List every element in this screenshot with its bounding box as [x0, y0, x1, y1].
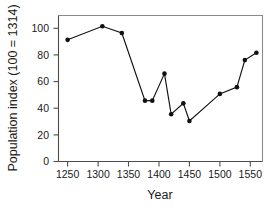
- data-point: [143, 98, 148, 103]
- data-point: [65, 38, 70, 43]
- data-point: [218, 92, 223, 97]
- data-point: [169, 112, 174, 117]
- x-tick-label-1350: 1350: [117, 168, 141, 180]
- y-tick-label-40: 40: [37, 102, 49, 114]
- x-tick-label-1500: 1500: [208, 168, 232, 180]
- x-tick-label-1300: 1300: [86, 168, 110, 180]
- x-tick-label-1450: 1450: [178, 168, 202, 180]
- y-axis-title: Population index (100 = 1314): [6, 4, 20, 171]
- data-point: [162, 71, 167, 76]
- data-point: [120, 31, 125, 36]
- x-tick-label-1550: 1550: [239, 168, 263, 180]
- data-point: [100, 24, 105, 29]
- x-tick-label-1400: 1400: [147, 168, 171, 180]
- y-tick-label-100: 100: [31, 22, 49, 34]
- y-tick-label-0: 0: [43, 155, 49, 167]
- y-tick-label-20: 20: [37, 129, 49, 141]
- data-point: [235, 85, 240, 90]
- data-point: [243, 58, 248, 63]
- x-tick-label-1250: 1250: [56, 168, 80, 180]
- data-point: [254, 50, 259, 55]
- population-index-line-chart: 0 20 40 60 80 100 Population index (100 …: [0, 0, 277, 208]
- x-axis-tick-labels: 1250 1300 1350 1400 1450 1500 1550: [56, 168, 262, 180]
- x-axis-title: Year: [147, 188, 172, 202]
- y-tick-label-60: 60: [37, 75, 49, 87]
- chart-figure: 0 20 40 60 80 100 Population index (100 …: [0, 0, 277, 208]
- data-point: [181, 101, 186, 106]
- data-point: [150, 98, 155, 103]
- y-tick-label-80: 80: [37, 49, 49, 61]
- data-point: [187, 119, 192, 124]
